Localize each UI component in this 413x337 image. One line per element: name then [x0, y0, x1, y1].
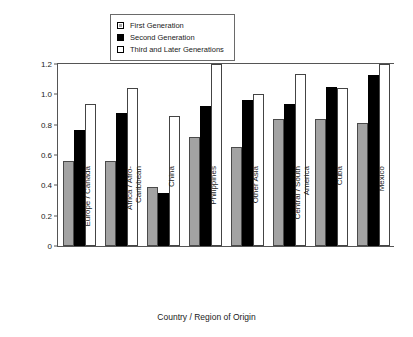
x-axis-tick-label: Central / South America: [293, 166, 311, 252]
black-square-icon: [117, 34, 124, 41]
x-axis-tick-label: Other Asia: [251, 166, 260, 252]
white-square-icon: [117, 46, 124, 53]
bar-first-generation: [63, 161, 74, 246]
bar-first-generation: [315, 119, 326, 246]
chart-legend: First Generation Second Generation Third…: [110, 14, 235, 61]
legend-item-first-generation: First Generation: [117, 20, 224, 31]
bar-first-generation: [189, 137, 200, 246]
bar-group: [186, 64, 228, 246]
x-axis-tick-label: Europe / Canada: [83, 166, 92, 252]
bar-group: [60, 64, 102, 246]
bar-group: [228, 64, 270, 246]
x-axis-tick-label: Cuba: [335, 166, 344, 252]
bar-chart-figure: First Generation Second Generation Third…: [0, 0, 413, 337]
bar-group: [312, 64, 354, 246]
x-axis-title: Country / Region of Origin: [0, 312, 413, 322]
bar-first-generation: [147, 187, 158, 246]
legend-item-third-generation: Third and Later Generations: [117, 44, 224, 55]
bar-first-generation: [231, 147, 242, 246]
legend-label: Third and Later Generations: [130, 45, 224, 54]
gray-square-icon: [117, 22, 124, 29]
x-axis-tick-label: Philippines: [209, 166, 218, 252]
x-axis-tick-label: Mexico: [377, 166, 386, 252]
bar-group: [144, 64, 186, 246]
bar-first-generation: [357, 123, 368, 246]
legend-item-second-generation: Second Generation: [117, 32, 224, 43]
legend-label: First Generation: [130, 21, 184, 30]
legend-label: Second Generation: [130, 33, 195, 42]
bar-first-generation: [273, 119, 284, 246]
bar-group: [354, 64, 396, 246]
x-axis-tick-label: Africa / Afro- Caribbean: [125, 166, 143, 252]
x-axis-tick-label: China: [167, 166, 176, 252]
bar-first-generation: [105, 161, 116, 246]
